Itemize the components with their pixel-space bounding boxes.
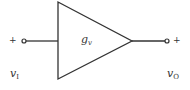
gain-symbol: g bbox=[81, 33, 88, 46]
output-terminal bbox=[165, 39, 169, 43]
input-plus-sign: + bbox=[9, 36, 17, 45]
gain-label: gv bbox=[81, 34, 92, 47]
input-voltage-label: vI bbox=[10, 68, 19, 81]
output-voltage-subscript: O bbox=[173, 73, 179, 81]
amplifier-triangle bbox=[58, 2, 132, 79]
output-plus-sign: + bbox=[173, 36, 181, 45]
amplifier-diagram bbox=[0, 0, 190, 90]
gain-subscript: v bbox=[88, 39, 92, 47]
output-voltage-label: vO bbox=[167, 68, 179, 81]
input-terminal bbox=[22, 39, 26, 43]
input-voltage-subscript: I bbox=[16, 73, 19, 81]
